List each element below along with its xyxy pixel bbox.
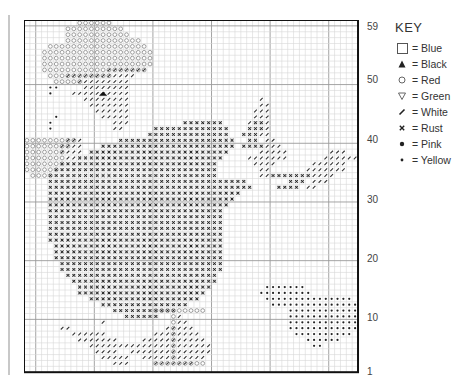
- rust-x-icon: [395, 123, 409, 133]
- key-item-black: = Black: [395, 56, 451, 72]
- row-label: 30: [367, 194, 378, 205]
- row-label: 50: [367, 74, 378, 85]
- blue-square-icon: [395, 43, 409, 54]
- cross-stitch-grid: [24, 20, 360, 374]
- key-item-blue: = Blue: [395, 40, 451, 56]
- key-item-label: = Green: [412, 90, 450, 102]
- key-item-white: = White: [395, 104, 451, 120]
- black-triangle-icon: [395, 59, 409, 69]
- key-item-label: = Black: [412, 58, 447, 70]
- key-item-yellow: = Yellow: [395, 152, 451, 168]
- green-down-triangle-icon: [395, 91, 409, 101]
- key-item-green: = Green: [395, 88, 451, 104]
- yellow-small-dot-icon: [395, 155, 409, 165]
- key-item-pink: = Pink: [395, 136, 451, 152]
- key-item-label: = Rust: [412, 122, 443, 134]
- white-slash-icon: [395, 107, 409, 117]
- key-item-label: = Pink: [412, 138, 441, 150]
- row-label: 10: [367, 312, 378, 323]
- row-label: 1: [367, 366, 373, 377]
- row-label: 40: [367, 134, 378, 145]
- key-item-label: = Red: [412, 74, 440, 86]
- key-item-label: = Yellow: [412, 154, 451, 166]
- key-item-label: = White: [412, 106, 448, 118]
- row-label: 20: [367, 253, 378, 264]
- key-item-label: = Blue: [412, 42, 442, 54]
- row-label: 59: [367, 21, 378, 32]
- pink-dot-icon: [395, 139, 409, 149]
- red-circle-icon: [395, 75, 409, 85]
- page-edge-rule: [8, 15, 10, 375]
- key-item-red: = Red: [395, 72, 451, 88]
- key-title: KEY: [395, 20, 451, 35]
- key-item-rust: = Rust: [395, 120, 451, 136]
- legend-key: KEY = Blue= Black= Red= Green= White= Ru…: [395, 20, 451, 168]
